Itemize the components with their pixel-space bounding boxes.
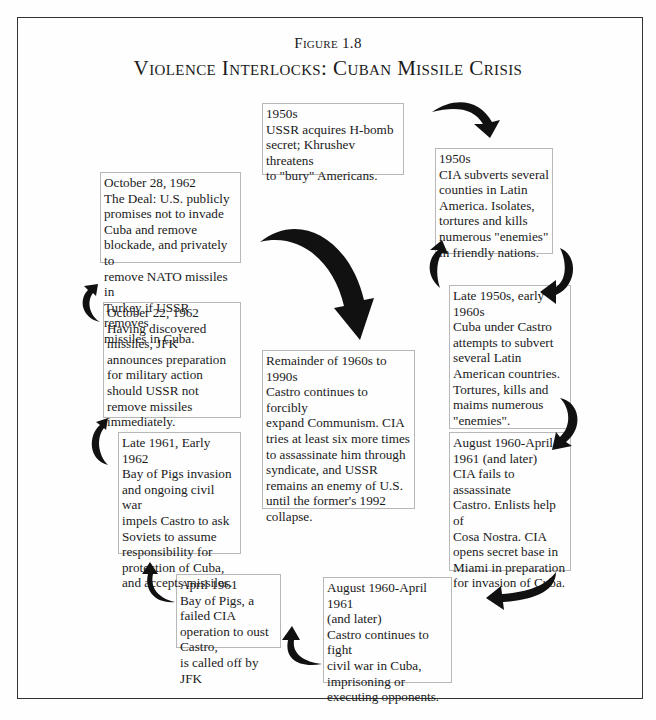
event-date: August 1960-April 1961 (and later) [327,580,448,627]
event-text: Bay of Pigs, a failed CIA operation to o… [180,593,277,687]
event-date: August 1960-April 1961 (and later) [453,435,567,466]
event-date: 1950s [439,151,549,167]
event-text: CIA fails to assassinate Castro. Enlists… [453,466,567,591]
event-text: The Deal: U.S. publicly promises not to … [104,191,237,347]
event-date: October 28, 1962 [104,175,237,191]
event-box-ussr-1950s: 1950s USSR acquires H-bomb secret; Khrus… [262,103,404,175]
event-box-cuba-late-1950s: Late 1950s, early 1960s Cuba under Castr… [449,285,571,429]
event-text: Castro continues to fight civil war in C… [327,627,448,705]
event-box-castro-aug-1960: August 1960-April 1961 (and later) Castr… [323,577,452,683]
event-box-oct-28-1962: October 28, 1962 The Deal: U.S. publicly… [100,172,241,263]
event-date: 1950s [266,106,400,122]
event-box-remainder: Remainder of 1960s to 1990s Castro conti… [262,350,415,509]
event-text: CIA subverts several counties in Latin A… [439,167,549,261]
figure-title: Violence Interlocks: Cuban Missile Crisi… [0,56,656,81]
event-text: Cuba under Castro attempts to subvert se… [453,319,567,428]
event-text: Bay of Pigs invasion and ongoing civil w… [122,466,237,591]
event-box-cia-1950s: 1950s CIA subverts several counties in L… [435,148,553,254]
event-date: Late 1950s, early 1960s [453,288,567,319]
event-text: USSR acquires H-bomb secret; Khrushev th… [266,122,400,184]
figure-label: Figure 1.8 [0,35,656,52]
event-box-cia-aug-1960: August 1960-April 1961 (and later) CIA f… [449,432,571,571]
event-box-late-1961: Late 1961, Early 1962 Bay of Pigs invasi… [118,432,241,554]
event-date: Late 1961, Early 1962 [122,435,237,466]
event-date: Remainder of 1960s to 1990s [266,353,411,384]
event-text: Castro continues to forcibly expand Comm… [266,384,411,524]
